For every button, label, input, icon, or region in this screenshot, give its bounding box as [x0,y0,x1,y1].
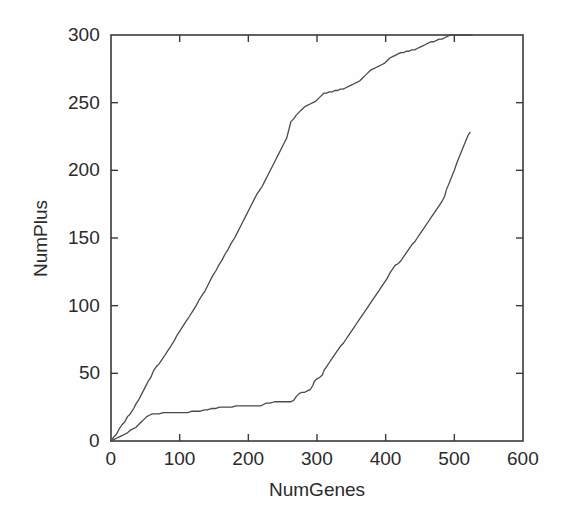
y-axis-title: NumPlus [30,199,52,276]
y-tick-label: 300 [68,24,100,46]
line-chart-canvas [0,0,567,514]
x-tick-label: 0 [106,448,117,470]
axes-frame [111,35,523,441]
y-tick-label: 50 [79,362,100,384]
x-tick-label: 100 [164,448,196,470]
x-tick-label: 200 [232,448,264,470]
y-tick-label: 100 [68,295,100,317]
plot-frame [111,35,523,441]
data-series-group [111,35,472,441]
x-tick-label: 600 [507,448,539,470]
x-tick-label: 300 [301,448,333,470]
tick-marks [111,35,523,441]
y-tick-label: 0 [89,430,100,452]
chart-figure: 0100200300400500600 050100150200250300 N… [0,0,567,514]
x-tick-label: 400 [370,448,402,470]
x-axis-title: NumGenes [269,479,365,501]
y-tick-label: 150 [68,227,100,249]
y-tick-label: 250 [68,92,100,114]
series-line-lower-curve [111,132,470,441]
y-tick-label: 200 [68,159,100,181]
x-tick-label: 500 [438,448,470,470]
